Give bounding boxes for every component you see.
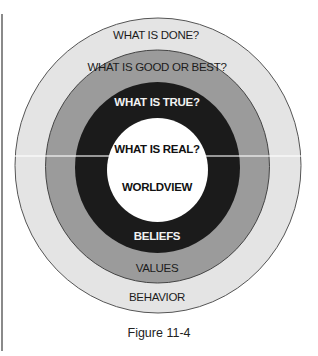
label-beliefs: BELIEFS xyxy=(134,230,181,242)
label-values: VALUES xyxy=(136,262,179,274)
scan-artifact-line xyxy=(3,155,303,157)
concentric-rings-diagram: WHAT IS DONE? WHAT IS GOOD OR BEST? WHAT… xyxy=(0,0,318,356)
question-beliefs: WHAT IS TRUE? xyxy=(114,96,200,108)
label-worldview: WORLDVIEW xyxy=(122,181,193,193)
core-worldview xyxy=(107,118,208,222)
label-behavior: BEHAVIOR xyxy=(129,291,185,303)
question-worldview: WHAT IS REAL? xyxy=(114,143,200,155)
question-behavior: WHAT IS DONE? xyxy=(113,29,199,41)
question-values: WHAT IS GOOD OR BEST? xyxy=(88,61,227,73)
figure-caption: Figure 11-4 xyxy=(0,326,318,340)
